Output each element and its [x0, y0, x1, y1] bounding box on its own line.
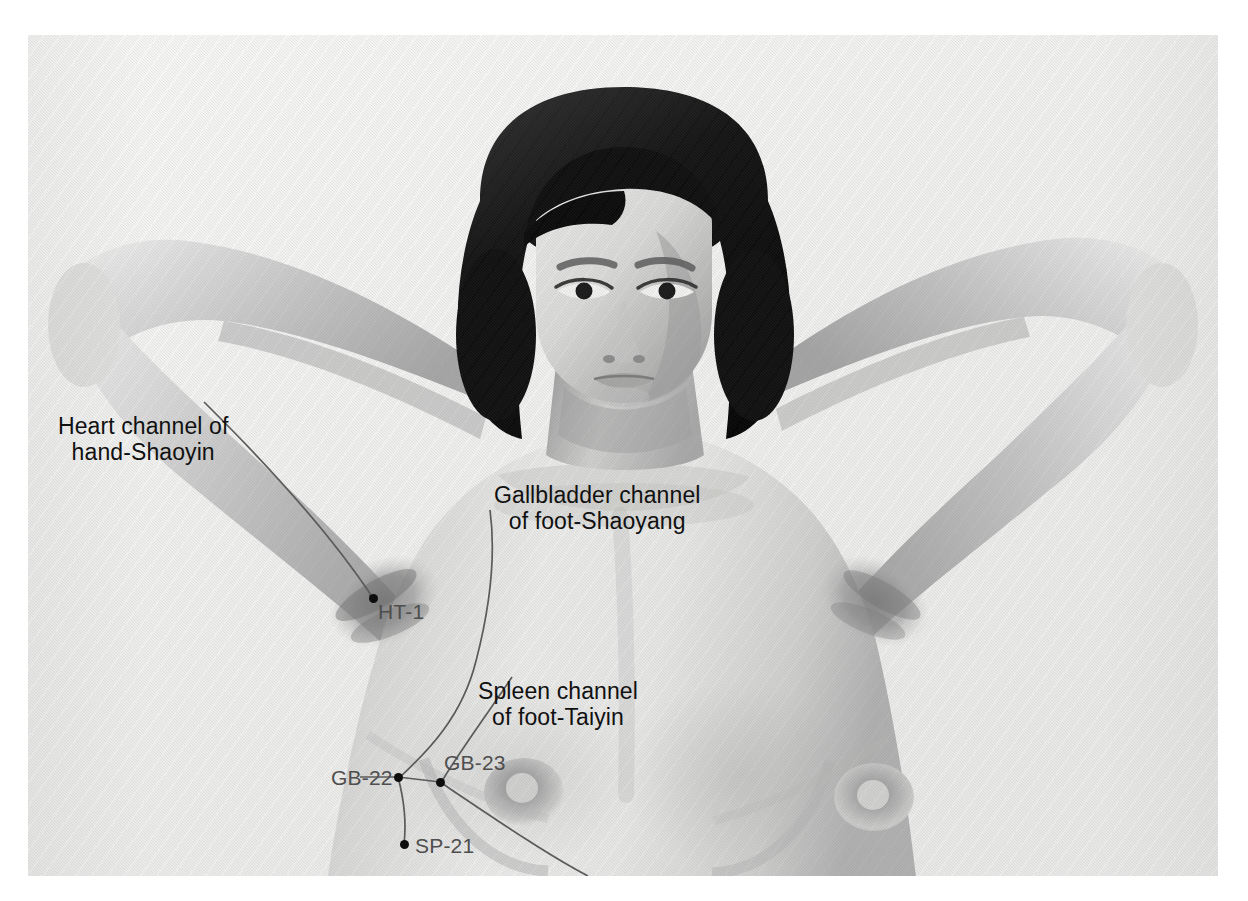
acupoint-label-ht1: HT-1: [378, 601, 424, 622]
gb23-descending-line: [440, 782, 588, 876]
label-gallbladder-channel: Gallbladder channel of foot-Shaoyang: [494, 482, 701, 534]
acupoint-label-gb22: GB-22: [331, 767, 393, 788]
acupoint-dot-gb22: [394, 773, 403, 782]
figure-page: Heart channel of hand-Shaoyin Gallbladde…: [0, 0, 1248, 901]
gb22-gb23-connector: [398, 777, 440, 782]
label-heart-channel: Heart channel of hand-Shaoyin: [58, 413, 228, 465]
gallbladder-channel-line2: of foot-Shaoyang: [494, 508, 701, 534]
acupoint-label-sp21: SP-21: [415, 835, 474, 856]
acupoint-dot-ht1: [369, 594, 378, 603]
acupoint-label-gb23: GB-23: [444, 752, 506, 773]
heart-channel-line: [204, 402, 373, 598]
acupoint-dot-sp21: [400, 840, 409, 849]
heart-channel-line2: hand-Shaoyin: [58, 439, 228, 465]
gallbladder-channel-line: [400, 510, 492, 777]
spleen-channel-line2: of foot-Taiyin: [478, 704, 638, 730]
spleen-channel-line1: Spleen channel: [478, 678, 638, 704]
acupoint-dot-gb23: [436, 778, 445, 787]
gallbladder-channel-line1: Gallbladder channel: [494, 482, 701, 508]
heart-channel-line1: Heart channel of: [58, 413, 228, 439]
gb22-sp21-connector: [398, 777, 405, 844]
label-spleen-channel: Spleen channel of foot-Taiyin: [478, 678, 638, 730]
